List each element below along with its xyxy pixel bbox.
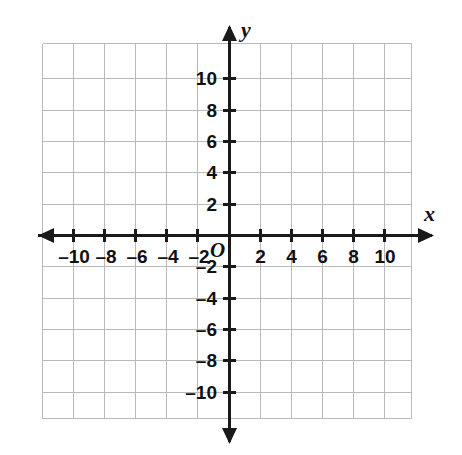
x-axis-left-arrowhead [38,228,54,243]
y-tick-label--4: –4 [165,289,217,308]
x-tick-label-8: 8 [338,247,369,266]
y-tick-label-4: 4 [165,163,217,182]
x-axis-right-arrowhead [418,228,434,243]
grid-vertical-lines [43,44,412,419]
y-tick-label-10: 10 [165,69,217,88]
x-axis-name-label: x [424,203,435,225]
y-axis-name-label: y [241,19,251,41]
y-tick-label-8: 8 [165,101,217,120]
y-tick-label--6: –6 [165,320,217,339]
x-tick-label-10: 10 [367,247,403,266]
x-axis-line [38,228,434,243]
grid-horizontal-lines [43,44,412,419]
x-tick-label-6: 6 [307,247,338,266]
y-axis-bottom-arrowhead [222,428,237,444]
y-tick-label--10: –10 [160,383,217,402]
x-tick-label-2: 2 [245,247,276,266]
coordinate-plane-figure: –10 –8 –6 –4 –2 2 4 6 8 10 10 8 6 4 2 –2… [0,0,462,455]
x-tick-label-4: 4 [276,247,307,266]
y-tick-label-2: 2 [165,195,217,214]
y-tick-label-6: 6 [165,132,217,151]
origin-label: O [210,240,225,261]
y-axis-top-arrowhead [222,25,237,41]
y-tick-label--8: –8 [165,351,217,370]
coordinate-grid-canvas [0,0,462,455]
